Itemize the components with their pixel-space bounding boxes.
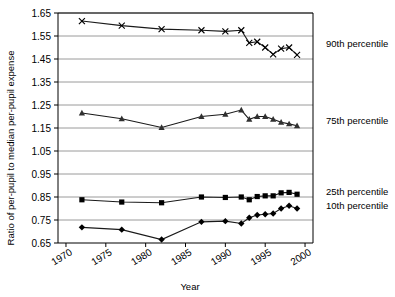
x-axis-ticks: 1970197519801985199019952000 <box>49 243 313 267</box>
x-tick-label: 1980 <box>129 246 154 267</box>
data-point-marker <box>119 199 124 204</box>
data-point-marker <box>270 51 276 57</box>
y-tick-label: 1.55 <box>32 31 52 42</box>
data-point-marker <box>294 192 299 197</box>
data-point-marker <box>79 110 85 116</box>
legend: 90th percentile75th percentile25th perce… <box>326 38 388 211</box>
gridlines <box>58 13 313 220</box>
y-tick-label: 1.65 <box>32 8 52 19</box>
y-tick-label: 1.05 <box>32 146 52 157</box>
data-series <box>79 18 301 243</box>
data-point-marker <box>79 197 84 202</box>
x-tick-label: 1990 <box>209 246 234 267</box>
data-point-marker <box>159 200 164 205</box>
line-chart: 0.650.750.850.951.051.151.251.351.451.55… <box>0 0 395 297</box>
y-tick-label: 0.75 <box>32 215 52 226</box>
y-axis-ticks: 0.650.750.850.951.051.151.251.351.451.55… <box>32 8 58 249</box>
data-point-marker <box>294 205 300 211</box>
data-point-marker <box>262 211 268 217</box>
data-point-marker <box>271 193 276 198</box>
data-point-marker <box>223 195 228 200</box>
y-tick-label: 0.95 <box>32 169 52 180</box>
data-point-marker <box>279 190 284 195</box>
data-point-marker <box>119 226 125 232</box>
y-axis-label: Ratio of per-pupil to median per-pupil e… <box>5 51 16 246</box>
x-axis-label: Year <box>180 281 199 292</box>
data-point-marker <box>294 52 300 58</box>
series-polyline <box>82 21 297 55</box>
series-1 <box>79 18 300 58</box>
y-tick-label: 0.85 <box>32 192 52 203</box>
data-point-marker <box>199 194 204 199</box>
data-point-marker <box>286 190 291 195</box>
data-point-marker <box>286 203 292 209</box>
data-point-marker <box>158 236 164 242</box>
y-tick-label: 1.15 <box>32 123 52 134</box>
series-2 <box>79 107 300 130</box>
legend-label-4: 10th percentile <box>326 200 388 211</box>
legend-label-1: 90th percentile <box>326 38 388 49</box>
data-point-marker <box>270 210 276 216</box>
chart-figure: 0.650.750.850.951.051.151.251.351.451.55… <box>0 0 395 297</box>
x-tick-label: 2000 <box>288 246 313 267</box>
data-point-marker <box>247 197 252 202</box>
series-4 <box>79 203 301 243</box>
data-point-marker <box>262 45 268 51</box>
data-point-marker <box>222 218 228 224</box>
data-point-marker <box>254 212 260 218</box>
series-polyline <box>82 206 297 240</box>
y-tick-label: 1.45 <box>32 54 52 65</box>
y-tick-label: 1.35 <box>32 77 52 88</box>
legend-label-2: 75th percentile <box>326 115 388 126</box>
data-point-marker <box>239 194 244 199</box>
x-tick-label: 1970 <box>49 246 74 267</box>
data-point-marker <box>79 224 85 230</box>
data-point-marker <box>255 194 260 199</box>
series-3 <box>79 190 299 206</box>
x-tick-label: 1975 <box>89 246 114 267</box>
data-point-marker <box>278 205 284 211</box>
x-tick-label: 1995 <box>249 246 274 267</box>
x-tick-label: 1985 <box>169 246 194 267</box>
y-tick-label: 1.25 <box>32 100 52 111</box>
data-point-marker <box>263 193 268 198</box>
legend-label-3: 25th percentile <box>326 186 388 197</box>
y-tick-label: 0.65 <box>32 238 52 249</box>
data-point-marker <box>238 107 244 113</box>
